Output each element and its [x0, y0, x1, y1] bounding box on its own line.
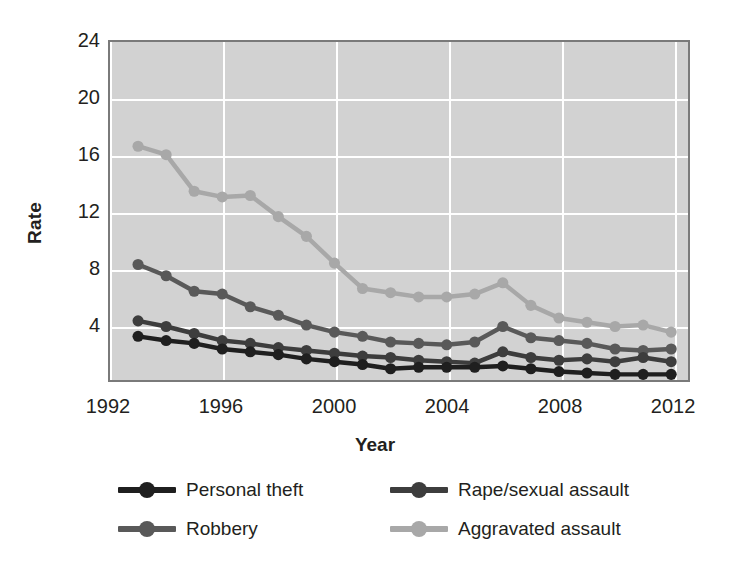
data-point-marker — [609, 356, 620, 367]
data-point-marker — [385, 287, 396, 298]
data-point-marker — [245, 190, 256, 201]
x-axis-title: Year — [0, 434, 750, 456]
legend-swatch-icon — [390, 520, 448, 538]
x-tick-label: 2004 — [402, 392, 492, 420]
data-point-marker — [189, 328, 200, 339]
data-point-marker — [497, 346, 508, 357]
data-point-marker — [553, 335, 564, 346]
legend-item[interactable]: Robbery — [118, 518, 390, 540]
data-point-marker — [469, 336, 480, 347]
series-robbery — [132, 259, 676, 356]
legend-label: Aggravated assault — [458, 518, 621, 540]
series-line — [138, 146, 671, 332]
data-point-marker — [357, 331, 368, 342]
data-point-marker — [638, 320, 649, 331]
legend-label: Personal theft — [186, 479, 303, 501]
data-point-marker — [301, 231, 312, 242]
data-point-marker — [581, 338, 592, 349]
plot-area — [108, 40, 690, 382]
y-tick-label: 12 — [44, 201, 100, 221]
data-point-marker — [469, 362, 480, 373]
data-point-marker — [161, 335, 172, 346]
data-point-marker — [525, 300, 536, 311]
data-point-marker — [609, 321, 620, 332]
legend-marker-dot-icon — [411, 521, 427, 537]
data-point-marker — [329, 356, 340, 367]
y-tick-label: 16 — [44, 144, 100, 164]
x-tick-label: 2008 — [515, 392, 605, 420]
legend-item[interactable]: Personal theft — [118, 479, 390, 501]
legend-swatch-icon — [118, 520, 176, 538]
data-point-marker — [553, 366, 564, 377]
data-point-marker — [217, 343, 228, 354]
legend-marker-dot-icon — [411, 482, 427, 498]
legend-marker-dot-icon — [139, 521, 155, 537]
data-point-marker — [385, 363, 396, 374]
data-point-marker — [525, 363, 536, 374]
data-point-marker — [132, 315, 143, 326]
data-point-marker — [609, 343, 620, 354]
data-point-marker — [189, 286, 200, 297]
data-point-marker — [497, 277, 508, 288]
legend-label: Rape/sexual assault — [458, 479, 629, 501]
data-point-marker — [161, 270, 172, 281]
data-point-marker — [638, 369, 649, 380]
data-point-marker — [666, 356, 677, 367]
data-point-marker — [161, 149, 172, 160]
legend-label: Robbery — [186, 518, 258, 540]
data-point-marker — [413, 291, 424, 302]
data-point-marker — [497, 360, 508, 371]
legend-item[interactable]: Aggravated assault — [390, 518, 678, 540]
data-point-marker — [301, 353, 312, 364]
chart-legend: Personal theftRape/sexual assaultRobbery… — [118, 470, 678, 548]
data-point-marker — [245, 301, 256, 312]
data-point-marker — [666, 343, 677, 354]
data-point-marker — [581, 353, 592, 364]
data-point-marker — [525, 332, 536, 343]
x-tick-label: 2012 — [628, 392, 718, 420]
data-point-marker — [385, 336, 396, 347]
data-point-marker — [553, 312, 564, 323]
data-point-marker — [273, 310, 284, 321]
x-tick-label: 1992 — [63, 392, 153, 420]
x-tick-label: 2000 — [289, 392, 379, 420]
data-point-marker — [581, 317, 592, 328]
data-point-marker — [525, 352, 536, 363]
data-point-marker — [441, 339, 452, 350]
x-tick-label: 1996 — [176, 392, 266, 420]
y-tick-label: 24 — [44, 30, 100, 50]
data-point-marker — [497, 321, 508, 332]
series-lines-svg — [110, 42, 688, 380]
data-point-marker — [385, 352, 396, 363]
data-point-marker — [132, 331, 143, 342]
y-tick-label: 4 — [44, 315, 100, 335]
legend-swatch-icon — [390, 481, 448, 499]
data-point-marker — [581, 367, 592, 378]
data-point-marker — [161, 321, 172, 332]
data-point-marker — [301, 320, 312, 331]
data-point-marker — [132, 259, 143, 270]
data-point-marker — [132, 141, 143, 152]
data-point-marker — [217, 191, 228, 202]
data-point-marker — [357, 283, 368, 294]
y-tick-label: 20 — [44, 87, 100, 107]
data-point-marker — [273, 211, 284, 222]
data-point-marker — [413, 362, 424, 373]
data-point-marker — [357, 359, 368, 370]
series-aggravated-assault — [132, 141, 676, 338]
y-tick-label: 8 — [44, 258, 100, 278]
data-point-marker — [638, 352, 649, 363]
data-point-marker — [329, 258, 340, 269]
data-point-marker — [553, 355, 564, 366]
data-point-marker — [666, 369, 677, 380]
data-point-marker — [469, 289, 480, 300]
legend-swatch-icon — [118, 481, 176, 499]
data-point-marker — [189, 186, 200, 197]
legend-item[interactable]: Rape/sexual assault — [390, 479, 678, 501]
data-point-marker — [273, 349, 284, 360]
data-point-marker — [413, 338, 424, 349]
data-point-marker — [441, 362, 452, 373]
data-point-marker — [666, 327, 677, 338]
data-point-marker — [217, 289, 228, 300]
y-axis-tick-labels: 4812162024 — [44, 0, 100, 563]
